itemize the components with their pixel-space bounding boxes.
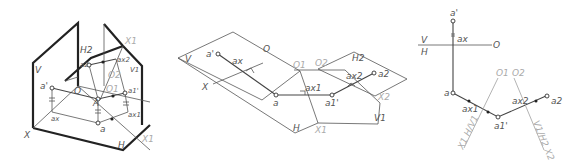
label-v: V	[421, 35, 428, 45]
point-a-prime	[451, 19, 455, 23]
label-o1: O1	[496, 68, 509, 78]
label-ax2: ax2	[117, 56, 130, 64]
marker-dot	[110, 117, 113, 120]
label-a: a	[273, 98, 279, 108]
label-ax: ax	[232, 56, 244, 66]
label-o2: O2	[512, 68, 525, 78]
label-axis2: V1/H2 X2	[531, 119, 556, 162]
label-x1-top: X1	[124, 36, 137, 46]
a1-ax1-line	[125, 93, 128, 112]
label-ax: ax	[51, 115, 60, 123]
label-axis1: X1 H/V1	[455, 114, 480, 152]
label-h2: H2	[352, 53, 365, 63]
h-plane-edge	[33, 125, 150, 150]
label-h: H	[293, 123, 300, 133]
right-angle	[246, 68, 254, 73]
point-a	[451, 91, 455, 95]
marker-dot	[111, 94, 114, 97]
label-v1: V1	[130, 66, 139, 74]
marker-dot	[535, 100, 538, 103]
label-a1-prime: a1'	[128, 87, 139, 95]
point-a-prime	[50, 86, 54, 90]
label-x: X	[201, 82, 209, 92]
label-a2: a2	[551, 96, 563, 106]
label-x1: X1	[141, 134, 154, 144]
isometric-view: V X H X1 X1 H2 V1 a' A a ax ax1 ax2 a1' …	[23, 23, 154, 150]
point-a1-prime	[330, 93, 334, 97]
label-ax1: ax1	[462, 104, 479, 114]
label-ax1: ax1	[128, 111, 141, 119]
label-a2: a2	[80, 61, 89, 69]
point-a2	[545, 94, 549, 98]
point-a	[274, 93, 278, 97]
label-a-prime: a'	[450, 8, 458, 18]
x1-line	[300, 71, 318, 123]
label-x: X	[23, 130, 31, 140]
point-a1-prime	[123, 91, 127, 95]
label-v: V	[35, 65, 42, 75]
label-v1: V1	[374, 113, 386, 123]
label-h: H	[118, 140, 125, 150]
label-o: O	[74, 86, 81, 96]
label-x1: X1	[314, 125, 327, 135]
marker-dot	[468, 100, 471, 103]
label-a-prime: a'	[40, 81, 48, 91]
epure: a' ax V H O a ax1 a1' ax2 a2 O1 O2 X1 H/…	[418, 8, 563, 162]
label-a: a	[100, 124, 106, 134]
label-o1: O1	[106, 84, 119, 94]
label-a-prime: a'	[206, 49, 214, 59]
label-ax1: ax1	[305, 83, 322, 93]
label-o2: O2	[315, 58, 328, 68]
label-x2: X2	[377, 92, 390, 102]
marker-dot	[487, 111, 490, 114]
unfolded-planes: V X O O1 O2 H2 H V1 X1 X2 a' ax a ax1 a1…	[178, 32, 407, 135]
a2-A-line	[89, 65, 98, 99]
point-a1-prime	[496, 115, 500, 119]
label-ax2: ax2	[346, 71, 363, 81]
label-h: H	[421, 47, 428, 57]
label-ax: ax	[457, 34, 469, 44]
label-a1-prime: a1'	[325, 98, 339, 108]
label-o: O	[493, 40, 500, 50]
label-ax2: ax2	[512, 96, 529, 106]
label-a1-prime: a1'	[494, 121, 508, 131]
label-o1: O1	[293, 60, 306, 70]
projection-diagrams: V X H X1 X1 H2 V1 a' A a ax ax1 ax2 a1' …	[0, 0, 578, 165]
label-h2: H2	[80, 45, 93, 55]
label-v: V	[185, 54, 192, 64]
point-a2	[372, 71, 376, 75]
label-a: a	[444, 88, 450, 98]
label-o2: O2	[108, 70, 121, 80]
v-plane	[178, 32, 300, 100]
point-a-prime	[216, 52, 220, 56]
label-a2: a2	[378, 69, 390, 79]
label-A: A	[92, 98, 99, 108]
label-o: O	[263, 44, 270, 54]
marker-dot	[101, 60, 104, 63]
